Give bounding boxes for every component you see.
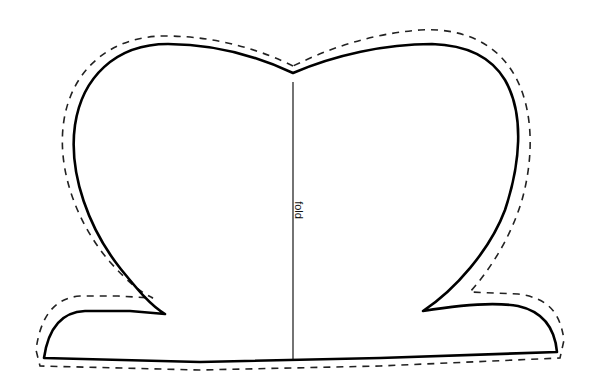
fold-label: fold [293, 201, 304, 219]
seam-allowance-outline [36, 30, 564, 370]
pattern-canvas [0, 0, 592, 391]
